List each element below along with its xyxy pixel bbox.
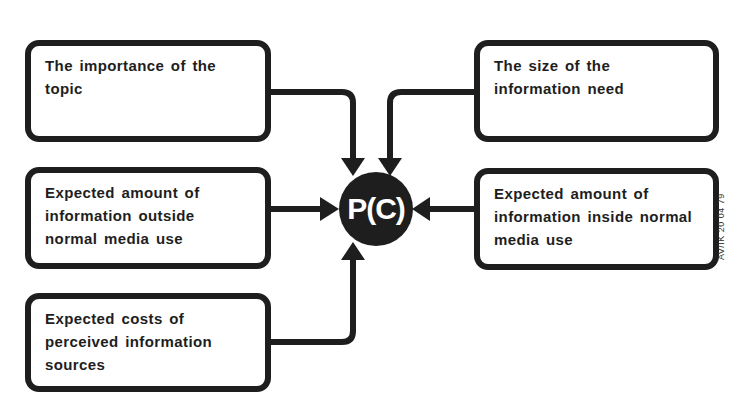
arrowhead-importance [341, 158, 365, 176]
arrowhead-costs [341, 242, 365, 260]
connector-importance [270, 92, 353, 160]
factor-box-costs: Expected costs of perceived information … [25, 293, 271, 392]
connector-size [390, 92, 474, 160]
factor-box-size: The size of the information need [474, 40, 719, 142]
factor-box-inside-media: Expected amount of information inside no… [474, 168, 719, 270]
center-node-label: P(C) [347, 192, 405, 226]
factor-label-costs: Expected costs of perceived information … [45, 310, 212, 373]
factor-box-importance: The importance of the topic [25, 40, 271, 142]
factor-label-outside-media: Expected amount of information outside n… [45, 184, 200, 247]
center-node-pc: P(C) [339, 172, 413, 246]
factor-label-inside-media: Expected amount of information inside no… [494, 185, 692, 248]
factor-label-importance: The importance of the topic [45, 57, 216, 97]
factor-label-size: The size of the information need [494, 57, 624, 97]
factor-box-outside-media: Expected amount of information outside n… [25, 167, 271, 269]
connector-costs [270, 258, 353, 342]
figure-code: AV/IK 20 04 79 [716, 193, 726, 260]
arrowhead-outside [320, 197, 339, 221]
arrowhead-inside [412, 197, 430, 221]
